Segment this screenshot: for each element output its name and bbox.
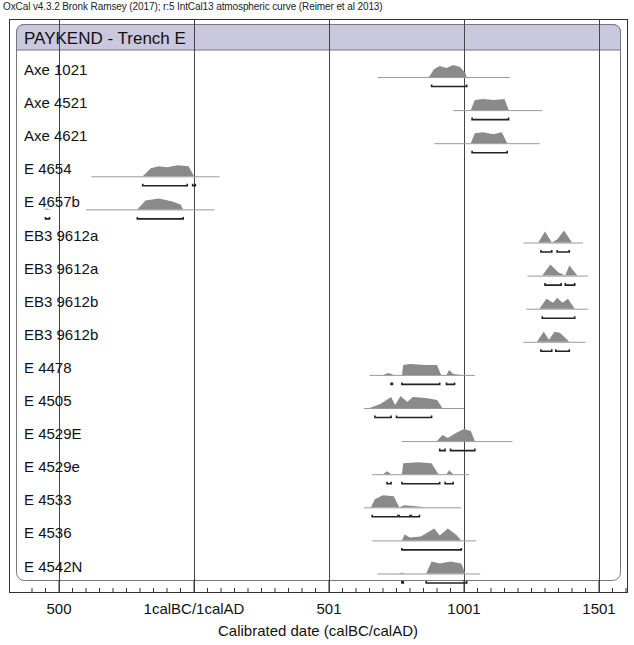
x-axis: 5001calBC/1calAD50110011501 — [32, 580, 626, 617]
hpd-range-bracket — [391, 382, 392, 384]
probability-distribution — [471, 99, 509, 110]
hpd-range-bracket — [402, 581, 403, 583]
sample-label: E 4542N — [24, 558, 82, 575]
calibration-plot: PAYKEND - Trench E Axe 1021Axe 4521Axe 4… — [0, 0, 634, 645]
sample-label: Axe 1021 — [24, 61, 87, 78]
sample-label: Axe 4521 — [24, 94, 87, 111]
sample-label: EB3 9612b — [24, 293, 98, 310]
sample-label: E 4529E — [24, 425, 82, 442]
hpd-range-bracket — [426, 581, 467, 583]
sample-label: E 4654 — [24, 160, 72, 177]
sample-label: E 4657b — [24, 193, 80, 210]
sample-label: E 4478 — [24, 359, 72, 376]
sample-label: E 4529e — [24, 458, 80, 475]
x-axis-title: Calibrated date (calBC/calAD) — [218, 622, 418, 639]
sample-label: EB3 9612a — [24, 227, 99, 244]
probability-distribution — [471, 132, 507, 143]
x-tick-label: 501 — [316, 600, 341, 617]
sample-label: E 4505 — [24, 392, 72, 409]
sample-label: EB3 9612a — [24, 260, 99, 277]
x-tick-label: 1001 — [447, 600, 480, 617]
panel-frame — [17, 25, 621, 581]
x-tick-label: 500 — [46, 600, 71, 617]
sample-label: E 4536 — [24, 524, 72, 541]
panel-title: PAYKEND - Trench E — [24, 29, 186, 48]
sample-label: E 4533 — [24, 491, 72, 508]
sample-label: Axe 4621 — [24, 127, 87, 144]
sample-label: EB3 9612b — [24, 326, 98, 343]
x-tick-label: 1501 — [582, 600, 615, 617]
x-tick-label: 1calBC/1calAD — [144, 600, 245, 617]
